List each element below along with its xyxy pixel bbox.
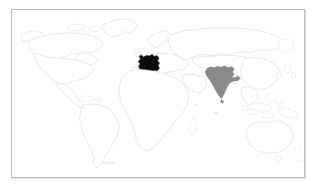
figure-root: France India — [0, 0, 323, 185]
landmass-greenland — [102, 19, 137, 37]
landmass-south-america — [80, 104, 120, 168]
world-map — [12, 10, 304, 177]
landmass-australia — [246, 121, 303, 162]
landmass-north-america — [21, 24, 103, 108]
map-border-frame — [11, 9, 305, 178]
